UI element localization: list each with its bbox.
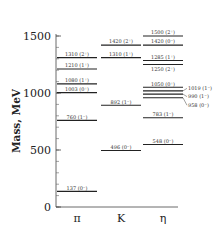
energy-level-label: 958 (0⁻) bbox=[188, 102, 209, 108]
energy-levels: 137 (0⁻)760 (1⁻)1003 (0⁺)1080 (1⁺)1210 (… bbox=[57, 29, 212, 191]
major-ticks: 050010001500 bbox=[23, 30, 61, 214]
energy-level-label: 496 (0⁻) bbox=[111, 144, 132, 150]
energy-level-label: 783 (1⁻) bbox=[153, 111, 174, 117]
category-label-eta: η bbox=[160, 212, 167, 225]
energy-level-label: 1420 (2⁺) bbox=[109, 38, 133, 44]
y-tick-label: 1500 bbox=[23, 30, 51, 43]
leader-line bbox=[183, 98, 187, 106]
energy-level-label: 1210 (1⁺) bbox=[65, 62, 89, 68]
energy-level-label: 1420 (0⁻) bbox=[151, 38, 175, 44]
minor-ticks bbox=[56, 36, 59, 207]
y-tick-label: 1000 bbox=[23, 87, 51, 100]
energy-level-label: 990 (1⁻) bbox=[188, 93, 209, 99]
energy-level-label: 1019 (1⁻) bbox=[188, 85, 212, 91]
energy-level-label: 1310 (2⁺) bbox=[65, 51, 89, 57]
energy-level-label: 892 (1⁻) bbox=[111, 99, 132, 105]
energy-level-label: 1310 (1⁺) bbox=[109, 51, 133, 57]
energy-level-label: 1050 (0⁺) bbox=[151, 81, 175, 87]
category-label-pi: π bbox=[73, 212, 80, 225]
energy-level-label: 548 (0⁻) bbox=[153, 138, 174, 144]
y-tick-label: 500 bbox=[30, 144, 51, 157]
y-tick-label: 0 bbox=[44, 201, 51, 214]
energy-level-label: 1500 (2⁺) bbox=[151, 29, 175, 35]
energy-level-label: 1003 (0⁺) bbox=[65, 86, 89, 92]
y-axis-label: Mass, MeV bbox=[10, 88, 22, 153]
category-label-k: K bbox=[117, 212, 126, 225]
energy-level-label: 760 (1⁻) bbox=[67, 114, 88, 120]
leader-line bbox=[183, 94, 187, 97]
energy-level-label: 1250 (2⁺) bbox=[151, 66, 175, 72]
category-labels: π K η bbox=[73, 212, 166, 225]
energy-level-label: 137 (0⁻) bbox=[67, 185, 88, 191]
energy-level-label: 1080 (1⁺) bbox=[65, 77, 89, 83]
mass-level-chart: 050010001500 Mass, MeV π K η 137 (0⁻)760… bbox=[0, 0, 216, 233]
leader-line bbox=[183, 88, 187, 91]
energy-level-label: 1285 (1⁺) bbox=[151, 54, 175, 60]
